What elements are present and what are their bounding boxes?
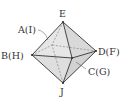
leader-a <box>38 30 48 40</box>
label-e: E <box>59 8 66 19</box>
label-j: J <box>59 86 64 97</box>
octahedron-diagram: E A(I) B(H) D(F) C(G) J <box>0 0 122 104</box>
label-c: C(G) <box>88 66 110 77</box>
label-b: B(H) <box>1 50 24 61</box>
label-a: A(I) <box>17 24 36 35</box>
label-d: D(F) <box>98 46 120 57</box>
